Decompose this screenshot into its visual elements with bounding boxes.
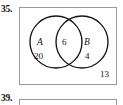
intersection-count: 6 xyxy=(62,38,67,47)
set-b-only-count: 4 xyxy=(85,52,90,61)
venn-universe-box-39 xyxy=(19,99,117,105)
venn-universe-box-35: A 20 6 B 4 13 xyxy=(19,7,117,85)
exercise-39-clip: 39. xyxy=(0,90,123,105)
exercise-39-partial: 39. xyxy=(0,90,123,105)
set-a-label: A xyxy=(37,38,43,48)
problem-number-35: 35. xyxy=(1,4,12,14)
exercise-35: 35. A 20 6 B 4 13 xyxy=(0,0,123,90)
set-a-only-count: 20 xyxy=(34,52,43,61)
set-b-label: B xyxy=(84,38,90,48)
outside-universe-count: 13 xyxy=(100,70,109,79)
problem-number-39: 39. xyxy=(1,93,12,103)
